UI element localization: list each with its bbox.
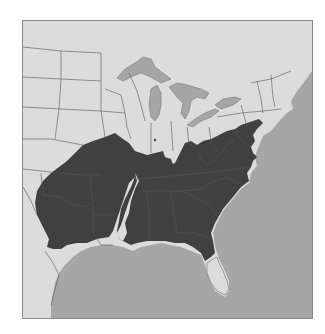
outlier-point — [154, 139, 156, 141]
range-map — [22, 20, 313, 319]
